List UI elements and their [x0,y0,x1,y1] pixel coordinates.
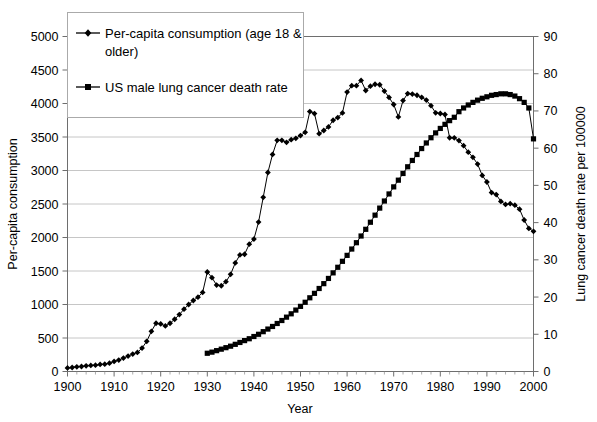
data-point [312,291,317,296]
data-point [331,270,336,275]
data-point [410,158,415,163]
x-tick-label: 1970 [380,380,408,394]
y-left-tick-label: 2500 [31,198,59,212]
data-point [386,191,391,196]
y-left-tick-label: 500 [38,332,59,346]
legend-entry-lungcancer[interactable]: US male lung cancer death rate [76,80,288,95]
y-right-tick-label: 30 [544,253,558,267]
data-point [270,324,275,329]
data-point [340,259,345,264]
data-point [452,115,457,120]
chart-canvas: 1900191019201930194019501960197019801990… [0,0,597,422]
data-point [424,140,429,145]
data-point [470,100,475,105]
data-point [358,233,363,238]
data-point [522,100,527,105]
data-point [298,304,303,309]
data-point [442,122,447,127]
y-right-tick-label: 20 [544,291,558,305]
data-point [363,227,368,232]
data-point [354,240,359,245]
data-point [498,91,503,96]
data-point [256,332,261,337]
data-point [228,344,233,349]
y-axis-left-title: Per-capita consumption [6,138,20,269]
data-point [419,146,424,151]
data-point [405,164,410,169]
y-axis-right-title: Lung cancer death rate per 100000 [574,106,588,301]
x-tick-label: 1910 [100,380,128,394]
data-point [531,136,536,141]
data-point [475,98,480,103]
y-left-tick-label: 3500 [31,131,59,145]
data-point [209,350,214,355]
legend-label-consumption-line2: older) [105,44,138,59]
data-point [223,345,228,350]
data-point [466,102,471,107]
square-marker-icon [85,84,91,90]
x-tick-label: 1990 [473,380,501,394]
data-point [265,326,270,331]
y-left-tick-label: 2000 [31,231,59,245]
data-point [321,281,326,286]
data-point [517,96,522,101]
chart-figure: 1900191019201930194019501960197019801990… [0,0,597,422]
data-point [247,336,252,341]
data-point [428,135,433,140]
x-axis-tick-labels: 1900191019201930194019501960197019801990… [54,380,548,394]
x-tick-label: 2000 [520,380,548,394]
y-right-tick-label: 70 [544,104,558,118]
y-right-tick-label: 90 [544,30,558,44]
data-point [205,351,210,356]
legend-label-lungcancer: US male lung cancer death rate [105,80,288,95]
data-point [275,321,280,326]
y-right-tick-label: 40 [544,216,558,230]
y-right-tick-label: 10 [544,328,558,342]
data-point [242,338,247,343]
data-point [335,265,340,270]
y-right-tick-label: 60 [544,142,558,156]
data-point [307,295,312,300]
data-point [508,92,513,97]
y-right-tick-label: 80 [544,67,558,81]
data-point [303,300,308,305]
data-point [484,94,489,99]
x-tick-label: 1960 [333,380,361,394]
data-point [526,105,531,110]
y-left-tick-label: 1500 [31,265,59,279]
data-point [317,286,322,291]
legend-label-consumption-line1: Per-capita consumption (age 18 & [105,26,302,41]
x-tick-label: 1930 [193,380,221,394]
data-point [368,220,373,225]
data-point [237,340,242,345]
data-point [214,348,219,353]
data-point [480,96,485,101]
data-point [293,307,298,312]
y-left-tick-label: 4000 [31,97,59,111]
x-axis-title: Year [287,402,312,416]
x-tick-label: 1950 [287,380,315,394]
x-tick-label: 1900 [54,380,82,394]
data-point [345,253,350,258]
data-point [251,334,256,339]
data-point [326,276,331,281]
data-point [494,92,499,97]
data-point [456,109,461,114]
y-left-tick-label: 4500 [31,64,59,78]
y-left-tick-label: 3000 [31,164,59,178]
data-point [400,171,405,176]
x-tick-label: 1920 [147,380,175,394]
data-point [284,315,289,320]
data-point [219,347,224,352]
data-point [512,93,517,98]
data-point [233,342,238,347]
data-point [261,329,266,334]
x-tick-label: 1940 [240,380,268,394]
data-point [447,118,452,123]
data-point [372,213,377,218]
data-point [503,91,508,96]
y-right-tick-label: 50 [544,179,558,193]
y-right-tick-label: 0 [544,365,551,379]
data-point [396,178,401,183]
chart-legend: Per-capita consumption (age 18 & older) … [68,13,304,118]
